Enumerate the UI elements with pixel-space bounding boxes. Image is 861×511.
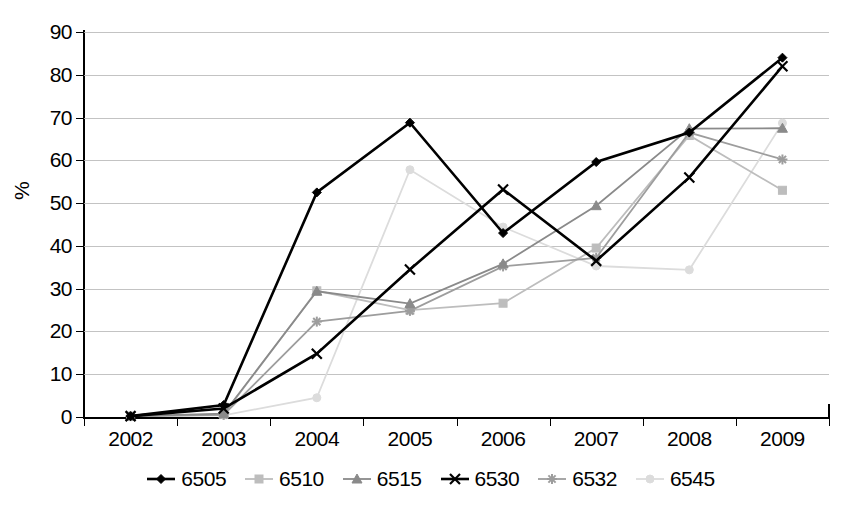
series-6545: [127, 119, 787, 420]
marker-asterisk: [777, 154, 787, 164]
marker-circle: [406, 166, 414, 174]
marker-square: [499, 299, 507, 307]
series-6530: [126, 61, 788, 421]
series-line-6530: [131, 66, 783, 416]
series-layer: [0, 0, 861, 511]
marker-square: [255, 475, 263, 483]
legend-item-6545[interactable]: 6545: [635, 468, 715, 490]
chart-legend: 650565106515653065326545: [0, 468, 861, 490]
marker-asterisk: [547, 474, 557, 484]
marker-cross-x: [405, 264, 415, 274]
legend-label-6505: 6505: [181, 468, 226, 490]
legend-item-6510[interactable]: 6510: [244, 468, 324, 490]
chart-root: % 0102030405060708090 200220032004200520…: [0, 0, 861, 511]
marker-cross-x: [312, 349, 322, 359]
marker-circle: [313, 394, 321, 402]
marker-diamond: [157, 475, 166, 484]
marker-circle: [685, 266, 693, 274]
marker-asterisk: [312, 317, 322, 327]
legend-swatch-6510: [244, 470, 274, 488]
legend-label-6532: 6532: [572, 468, 617, 490]
legend-item-6515[interactable]: 6515: [342, 468, 422, 490]
series-line-6515: [131, 128, 783, 416]
marker-cross-x: [498, 184, 508, 194]
legend-swatch-6515: [342, 470, 372, 488]
legend-item-6505[interactable]: 6505: [146, 468, 226, 490]
legend-swatch-6530: [440, 470, 470, 488]
legend-label-6515: 6515: [377, 468, 422, 490]
series-6505: [126, 53, 787, 420]
marker-cross-x: [684, 172, 694, 182]
series-line-6545: [131, 123, 783, 416]
legend-label-6530: 6530: [475, 468, 520, 490]
legend-label-6510: 6510: [279, 468, 324, 490]
legend-swatch-6505: [146, 470, 176, 488]
series-line-6532: [131, 133, 783, 417]
marker-circle: [646, 475, 654, 483]
legend-label-6545: 6545: [670, 468, 715, 490]
legend-swatch-6545: [635, 470, 665, 488]
series-line-6505: [131, 58, 783, 416]
legend-item-6532[interactable]: 6532: [537, 468, 617, 490]
marker-square: [592, 244, 600, 252]
legend-swatch-6532: [537, 470, 567, 488]
series-6532: [126, 128, 788, 422]
marker-square: [778, 186, 786, 194]
legend-item-6530[interactable]: 6530: [440, 468, 520, 490]
